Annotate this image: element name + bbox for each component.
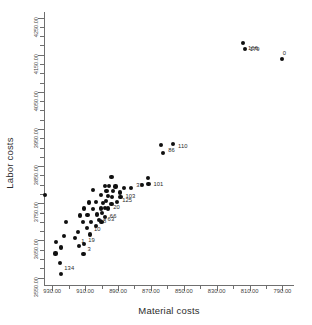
y-tick-label-text: 3950.00 xyxy=(33,128,39,148)
x-axis-title-text: Material costs xyxy=(138,305,199,316)
data-point[interactable] xyxy=(82,242,86,246)
y-axis-title-text: Labor costs xyxy=(4,137,15,188)
y-tick-minor xyxy=(40,36,44,37)
y-tick-minor xyxy=(40,120,44,121)
data-point[interactable] xyxy=(64,220,68,224)
data-point[interactable] xyxy=(113,184,117,188)
y-tick-minor xyxy=(40,110,44,111)
data-point[interactable] xyxy=(76,230,80,234)
data-point[interactable] xyxy=(78,213,82,217)
data-point-label: 166 xyxy=(248,45,258,51)
data-point[interactable] xyxy=(146,182,150,186)
data-point[interactable] xyxy=(43,193,47,197)
data-point[interactable] xyxy=(89,220,93,224)
data-point-label: 134 xyxy=(64,265,74,271)
x-tick-label-text: 790.00 xyxy=(274,288,292,294)
data-point[interactable] xyxy=(118,190,122,194)
y-tick-minor xyxy=(40,101,44,102)
data-point[interactable] xyxy=(88,232,92,236)
data-point[interactable] xyxy=(161,151,165,155)
scatter-chart-root: Labor costs Material costs 3550.003650.0… xyxy=(0,0,312,325)
data-point-label: 19 xyxy=(88,237,95,243)
data-point-label: 110 xyxy=(178,143,188,149)
data-point[interactable] xyxy=(107,184,111,188)
data-point[interactable] xyxy=(81,252,85,256)
data-point[interactable] xyxy=(97,218,101,222)
x-tick-label-text: 850.00 xyxy=(175,288,193,294)
x-tick-label-text: 870.00 xyxy=(142,288,160,294)
data-point[interactable] xyxy=(99,193,103,197)
data-point[interactable] xyxy=(104,189,108,193)
data-point[interactable] xyxy=(53,251,57,255)
y-tick-minor xyxy=(40,250,44,251)
x-tick-label-text: 910.00 xyxy=(76,288,94,294)
data-point-label: 0 xyxy=(283,50,286,56)
data-point[interactable] xyxy=(109,175,113,179)
data-point[interactable] xyxy=(109,202,113,206)
data-point[interactable] xyxy=(159,143,163,147)
y-tick-label-text: 4250.00 xyxy=(33,17,39,37)
y-tick-minor xyxy=(40,259,44,260)
x-tick-label-text: 830.00 xyxy=(208,288,226,294)
y-tick-label-text: 3850.00 xyxy=(33,165,39,185)
data-point[interactable] xyxy=(243,47,247,51)
x-tick-minor xyxy=(102,285,103,289)
data-point[interactable] xyxy=(87,200,91,204)
y-tick-label-text: 3750.00 xyxy=(33,202,39,222)
data-point[interactable] xyxy=(110,195,114,199)
data-point[interactable] xyxy=(85,226,89,230)
data-point-label: 86 xyxy=(168,147,175,153)
y-tick-minor xyxy=(40,148,44,149)
data-point-label: 66 xyxy=(110,213,117,219)
data-point[interactable] xyxy=(91,207,95,211)
data-point[interactable] xyxy=(122,186,126,190)
data-point[interactable] xyxy=(81,220,85,224)
data-point-label: 103 xyxy=(125,193,135,199)
x-tick-label-text: 810.00 xyxy=(241,288,259,294)
y-tick-minor xyxy=(40,231,44,232)
data-point[interactable] xyxy=(140,183,144,187)
y-tick-label-text: 3550.00 xyxy=(33,277,39,297)
data-point-label: 20 xyxy=(113,204,120,210)
data-point[interactable] xyxy=(129,186,133,190)
data-point[interactable] xyxy=(73,236,77,240)
data-point[interactable] xyxy=(94,200,98,204)
y-tick-label-text: 4150.00 xyxy=(33,54,39,74)
y-tick-minor xyxy=(40,213,44,214)
data-point[interactable] xyxy=(241,41,245,45)
y-tick-minor xyxy=(40,185,44,186)
y-axis-line xyxy=(44,12,45,285)
data-point[interactable] xyxy=(77,244,81,248)
x-tick-minor xyxy=(266,285,267,289)
data-point[interactable] xyxy=(115,200,119,204)
data-point[interactable] xyxy=(95,212,99,216)
data-point[interactable] xyxy=(85,213,89,217)
y-tick-minor xyxy=(40,73,44,74)
x-tick-label-text: 890.00 xyxy=(109,288,127,294)
data-point[interactable] xyxy=(104,199,108,203)
data-point[interactable] xyxy=(82,206,86,210)
y-tick-minor xyxy=(40,268,44,269)
y-tick-minor xyxy=(40,222,44,223)
y-tick-minor xyxy=(40,27,44,28)
data-point[interactable] xyxy=(91,188,95,192)
data-point-label: 101 xyxy=(153,181,163,187)
data-point[interactable] xyxy=(280,57,284,61)
x-axis-line xyxy=(44,285,294,286)
y-axis-title: Labor costs xyxy=(2,0,16,325)
data-point[interactable] xyxy=(59,245,63,249)
data-point[interactable] xyxy=(106,206,110,210)
y-tick-minor xyxy=(40,64,44,65)
data-point[interactable] xyxy=(171,142,175,146)
y-tick-minor xyxy=(40,138,44,139)
data-point[interactable] xyxy=(58,261,62,265)
data-point[interactable] xyxy=(146,176,150,180)
data-point[interactable] xyxy=(118,195,122,199)
data-point[interactable] xyxy=(54,240,58,244)
data-point[interactable] xyxy=(111,189,115,193)
y-tick-minor xyxy=(40,175,44,176)
y-tick-label-text: 4050.00 xyxy=(33,91,39,111)
plot-area: 3550.003650.003750.003850.003950.004050.… xyxy=(44,12,294,285)
data-point[interactable] xyxy=(62,234,66,238)
data-point[interactable] xyxy=(59,272,63,276)
